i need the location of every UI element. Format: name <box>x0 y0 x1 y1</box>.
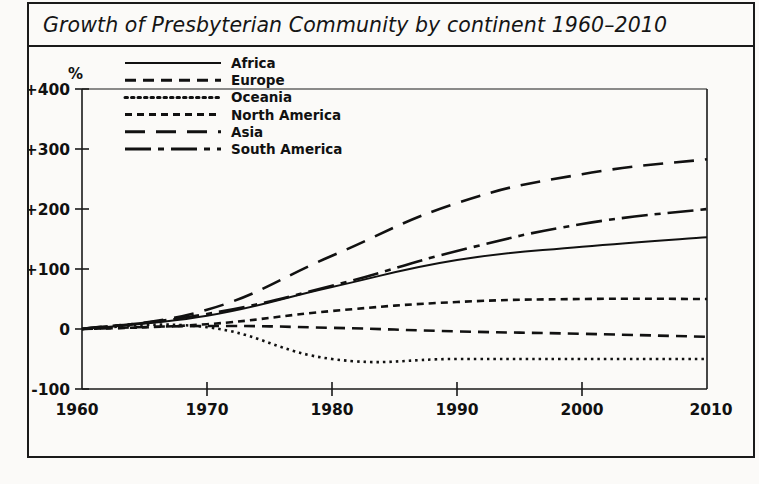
x-tick-label: 1970 <box>185 401 228 419</box>
series-line-south-america <box>82 209 707 329</box>
legend-label-south-america: South America <box>231 141 342 157</box>
y-axis-unit-label: % <box>68 65 83 83</box>
legend-label-africa: Africa <box>231 55 276 71</box>
figure-container: Growth of Presbyterian Community by cont… <box>0 0 759 484</box>
plot-area-wrapper: +400+300+200+1000-100 196019701980199020… <box>29 47 753 456</box>
axes <box>82 89 707 389</box>
series-line-africa <box>82 237 707 329</box>
legend-label-oceania: Oceania <box>231 89 292 105</box>
x-tick-label: 1960 <box>55 401 98 419</box>
legend-label-europe: Europe <box>231 72 285 88</box>
x-tick-label: 2010 <box>689 401 732 419</box>
x-tick-label: 1990 <box>435 401 478 419</box>
chart-title-band: Growth of Presbyterian Community by cont… <box>29 4 753 47</box>
y-tick-label: +200 <box>29 201 70 219</box>
legend-label-asia: Asia <box>231 124 263 140</box>
chart-frame: Growth of Presbyterian Community by cont… <box>27 2 755 458</box>
y-tick-label: -100 <box>31 381 70 399</box>
line-chart: +400+300+200+1000-100 196019701980199020… <box>29 47 753 457</box>
y-tick-label: +300 <box>29 141 70 159</box>
legend-label-north-america: North America <box>231 107 341 123</box>
y-tick-label: +400 <box>29 81 70 99</box>
chart-legend: AfricaEuropeOceaniaNorth AmericaAsiaSout… <box>125 55 342 157</box>
y-tick-labels: +400+300+200+1000-100 <box>29 81 70 399</box>
series-line-europe <box>82 326 707 337</box>
series-line-north-america <box>82 299 707 329</box>
series-lines <box>82 159 707 362</box>
x-tick-label: 1980 <box>310 401 353 419</box>
x-tick-label: 2000 <box>560 401 603 419</box>
page-title: Growth of Presbyterian Community by cont… <box>29 13 667 37</box>
y-tick-label: 0 <box>59 321 70 339</box>
y-tick-label: +100 <box>29 261 70 279</box>
x-tick-labels: 196019701980199020002010 <box>55 401 732 419</box>
